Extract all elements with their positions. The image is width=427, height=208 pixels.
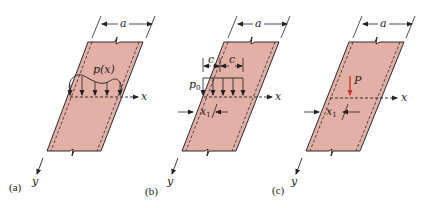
load-label: P xyxy=(353,74,362,87)
x-axis-label: x xyxy=(141,90,148,103)
panel-b: a c c p0 x x1 y (b) xyxy=(145,16,290,198)
panel-caption: (a) xyxy=(9,181,22,194)
c-label-right: c xyxy=(229,53,235,66)
y-axis-label: y xyxy=(290,175,298,188)
panel-c: a P x x1 y (c) xyxy=(272,16,415,197)
plate xyxy=(306,37,404,156)
x-axis-label: x xyxy=(275,90,282,103)
width-label: a xyxy=(380,17,387,30)
panel-caption: (c) xyxy=(272,184,285,197)
width-label: a xyxy=(120,17,127,30)
panel-caption: (b) xyxy=(145,185,158,198)
y-axis-label: y xyxy=(166,175,174,188)
load-label: p(x) xyxy=(93,63,115,76)
panel-a: a x y p(x) (a) xyxy=(9,16,155,194)
x-axis-label: x xyxy=(401,91,408,104)
y-axis xyxy=(37,158,43,174)
figure-canvas: a x y p(x) (a) a c c xyxy=(0,0,427,208)
c-label-left: c xyxy=(208,53,214,66)
load-label: p0 xyxy=(189,78,201,92)
y-axis-label: y xyxy=(31,175,39,188)
plate xyxy=(47,37,143,156)
width-label: a xyxy=(255,17,262,30)
